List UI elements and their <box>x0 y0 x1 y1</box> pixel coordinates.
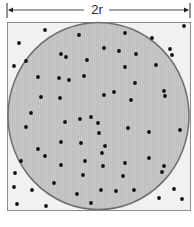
data-point <box>64 55 68 59</box>
data-point <box>168 47 172 51</box>
arrowhead-right-icon <box>184 8 189 13</box>
data-point <box>99 188 103 192</box>
data-point <box>36 147 40 151</box>
data-point <box>150 36 154 40</box>
data-point <box>129 98 133 102</box>
data-point <box>85 58 89 62</box>
data-point <box>97 131 101 135</box>
data-point <box>123 161 127 165</box>
data-point <box>24 59 28 63</box>
data-point <box>134 52 138 56</box>
data-point <box>89 115 93 119</box>
data-point <box>121 174 125 178</box>
data-point <box>123 31 127 35</box>
data-point <box>178 128 182 132</box>
data-point <box>101 164 105 168</box>
data-point <box>58 96 62 100</box>
data-point <box>81 173 85 177</box>
data-point <box>100 151 104 155</box>
data-point <box>43 154 47 158</box>
data-point <box>12 64 16 68</box>
data-point <box>163 94 167 98</box>
data-point <box>83 159 87 163</box>
data-point <box>123 65 127 69</box>
data-point <box>114 189 118 193</box>
data-point <box>77 33 81 37</box>
data-point <box>102 46 106 50</box>
data-point <box>12 185 16 189</box>
data-point <box>30 188 34 192</box>
data-point <box>57 76 61 80</box>
data-point <box>96 121 100 125</box>
data-point <box>112 90 116 94</box>
pi-estimation-diagram <box>0 0 194 227</box>
data-point <box>17 41 21 45</box>
data-point <box>44 204 48 208</box>
data-point <box>43 28 47 32</box>
data-point <box>182 24 186 28</box>
data-point <box>13 171 17 175</box>
data-point <box>59 140 63 144</box>
data-point <box>162 164 166 168</box>
data-point <box>170 53 174 57</box>
data-point <box>132 188 136 192</box>
data-point <box>82 74 86 78</box>
data-point <box>63 120 67 124</box>
dimension-label: 2r <box>86 2 108 18</box>
data-point <box>79 141 83 145</box>
data-point <box>36 75 40 79</box>
data-point <box>89 201 93 205</box>
arrowhead-left-icon <box>8 8 13 13</box>
data-point <box>157 196 161 200</box>
data-point <box>102 93 106 97</box>
data-point <box>117 49 121 53</box>
data-point <box>59 52 63 56</box>
data-point <box>172 187 176 191</box>
data-point <box>52 181 56 185</box>
data-point <box>147 130 151 134</box>
data-point <box>126 126 130 130</box>
data-point <box>67 78 71 82</box>
data-point <box>59 163 63 167</box>
data-point <box>78 117 82 121</box>
data-point <box>180 197 184 201</box>
data-point <box>147 156 151 160</box>
data-point <box>75 192 79 196</box>
data-point <box>162 89 166 93</box>
inscribed-circle <box>8 23 189 210</box>
data-point <box>133 81 137 85</box>
data-point <box>15 202 19 206</box>
data-point <box>29 111 33 115</box>
data-point <box>154 63 158 67</box>
data-point <box>39 95 43 99</box>
data-point <box>103 144 107 148</box>
data-point <box>160 170 164 174</box>
data-point <box>19 159 23 163</box>
data-point <box>24 125 28 129</box>
